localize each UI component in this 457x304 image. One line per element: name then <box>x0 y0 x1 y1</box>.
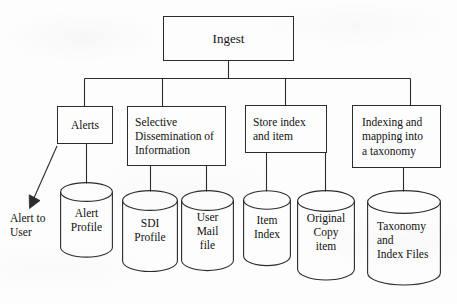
node-indexing-taxonomy-label: Indexing and mapping into a taxonomy <box>362 115 423 157</box>
datastore-taxonomy-index-files-label: Taxonomy and Index Files <box>367 219 441 261</box>
node-indexing-taxonomy[interactable]: Indexing and mapping into a taxonomy <box>352 105 441 168</box>
datastore-original-copy-item-label: Original Copy item <box>297 211 355 253</box>
node-selective-dissemination-label: Selective Dissemination of Information <box>135 115 214 157</box>
node-store-index-and-item-label: Store index and item <box>253 115 306 143</box>
datastore-item-index-label: Item Index <box>243 213 291 241</box>
datastore-item-index[interactable]: Item Index <box>243 190 291 266</box>
node-selective-dissemination[interactable]: Selective Dissemination of Information <box>127 106 226 166</box>
datastore-alert-profile[interactable]: Alert Profile <box>60 182 113 258</box>
node-ingest[interactable]: Ingest <box>163 16 294 61</box>
datastore-user-mail-file[interactable]: User Mail file <box>181 190 234 272</box>
datastore-sdi-profile[interactable]: SDI Profile <box>122 190 178 272</box>
node-alerts[interactable]: Alerts <box>57 106 113 144</box>
node-alerts-label: Alerts <box>71 118 99 132</box>
datastore-sdi-profile-label: SDI Profile <box>122 216 178 244</box>
datastore-taxonomy-index-files[interactable]: Taxonomy and Index Files <box>367 190 441 286</box>
node-ingest-label: Ingest <box>213 31 245 47</box>
datastore-original-copy-item[interactable]: Original Copy item <box>297 190 355 281</box>
node-store-index-and-item[interactable]: Store index and item <box>245 105 327 153</box>
label-alert-to-user: Alert to User <box>10 211 66 240</box>
datastore-user-mail-file-label: User Mail file <box>181 210 234 252</box>
diagram-canvas: Ingest Alerts Selective Dissemination of… <box>0 0 457 304</box>
datastore-alert-profile-label: Alert Profile <box>60 206 113 234</box>
arrow-alerts-to-user <box>34 146 58 199</box>
